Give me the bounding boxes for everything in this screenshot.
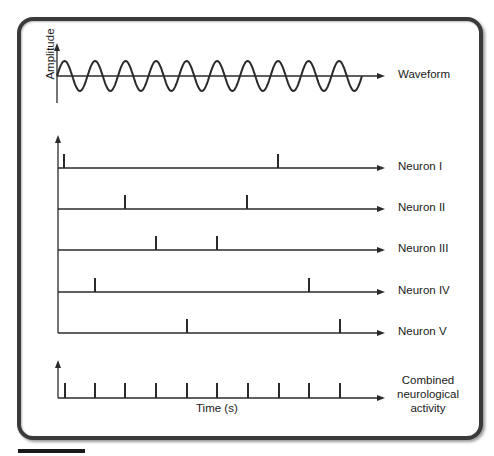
combined-activity-label: Combined neurological activity bbox=[392, 373, 464, 415]
combined-label-line-2: neurological bbox=[392, 387, 464, 401]
arrow-right-icon bbox=[377, 330, 385, 336]
neuron-1-label: Neuron I bbox=[398, 160, 442, 172]
sine-waveform bbox=[57, 61, 362, 91]
arrow-right-icon bbox=[377, 165, 385, 171]
arrow-right-icon bbox=[377, 289, 385, 295]
arrow-right-icon bbox=[377, 247, 385, 253]
combined-label-line-3: activity bbox=[392, 401, 464, 415]
amplitude-axis-label: Amplitude bbox=[44, 24, 56, 84]
arrow-up-icon bbox=[55, 360, 61, 368]
neuron-3-label: Neuron III bbox=[398, 242, 449, 254]
arrow-up-icon bbox=[55, 135, 61, 143]
arrow-right-icon bbox=[377, 206, 385, 212]
neuron-5-label: Neuron V bbox=[398, 325, 447, 337]
combined-label-line-1: Combined bbox=[392, 373, 464, 387]
scale-bar bbox=[18, 449, 85, 453]
waveform-label: Waveform bbox=[398, 68, 450, 80]
time-axis-label: Time (s) bbox=[196, 402, 238, 414]
arrow-right-icon bbox=[377, 73, 385, 79]
neuron-4-label: Neuron IV bbox=[398, 284, 450, 296]
neuron-2-label: Neuron II bbox=[398, 201, 445, 213]
arrow-right-icon bbox=[377, 395, 385, 401]
